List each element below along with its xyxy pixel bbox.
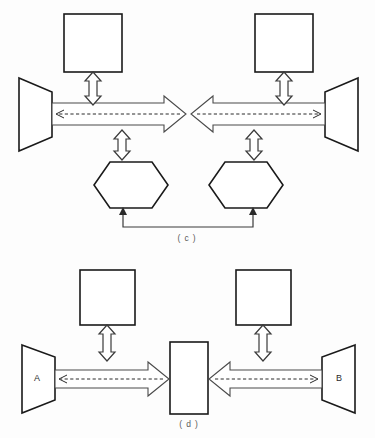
panel-c-top-right-square[interactable]	[255, 14, 313, 72]
figure-root: ( c ) A B	[0, 0, 375, 438]
panel-d-right-trapezoid-b-label: B	[336, 373, 342, 383]
panel-d-top-right-square[interactable]	[236, 270, 291, 325]
panel-c: ( c )	[19, 14, 358, 243]
panel-c-right-lower-vertical-double-arrow[interactable]	[246, 130, 262, 160]
panel-c-left-hexagon[interactable]	[94, 162, 168, 208]
panel-c-right-upper-vertical-double-arrow[interactable]	[276, 72, 292, 105]
panel-c-caption: ( c )	[177, 233, 196, 243]
diagram-canvas: ( c ) A B	[0, 0, 375, 438]
panel-c-feedback-connector	[123, 214, 253, 227]
panel-c-left-lower-vertical-double-arrow[interactable]	[114, 130, 130, 160]
panel-c-left-trapezoid[interactable]	[19, 78, 52, 151]
panel-c-right-hexagon[interactable]	[209, 162, 283, 208]
panel-d-top-left-square[interactable]	[80, 270, 135, 325]
panel-d-left-trapezoid-a-label: A	[34, 373, 40, 383]
panel-c-left-upper-vertical-double-arrow[interactable]	[85, 72, 101, 105]
panel-d-right-vertical-double-arrow[interactable]	[255, 325, 271, 361]
panel-d-caption: ( d )	[179, 419, 199, 429]
panel-c-right-trapezoid[interactable]	[325, 78, 358, 151]
panel-c-top-left-square[interactable]	[64, 14, 122, 72]
panel-d: A B ( d )	[22, 270, 355, 429]
panel-d-left-vertical-double-arrow[interactable]	[99, 325, 115, 361]
panel-d-center-rectangle[interactable]	[170, 342, 208, 414]
